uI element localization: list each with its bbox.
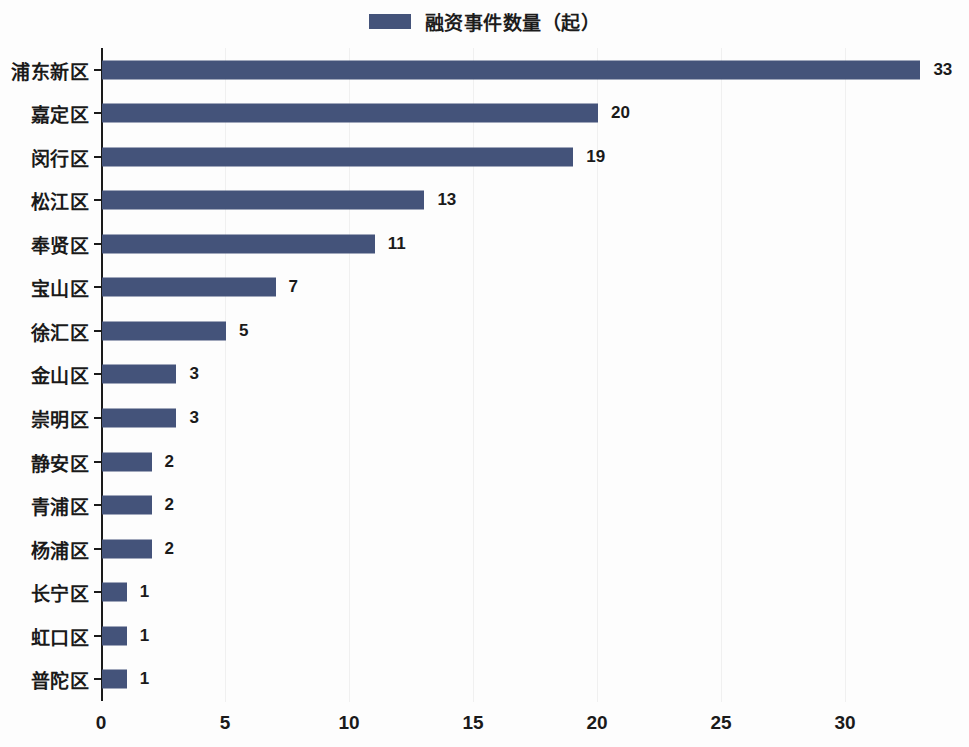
y-axis-tick — [94, 591, 101, 593]
category-label: 嘉定区 — [31, 100, 90, 127]
y-axis-tick — [94, 112, 101, 114]
category-label: 闵行区 — [31, 143, 90, 170]
category-label: 青浦区 — [31, 492, 90, 519]
bar-value-label: 3 — [189, 408, 198, 428]
bar-value-label: 19 — [586, 147, 605, 167]
bar[interactable] — [102, 104, 598, 123]
y-axis-tick — [94, 156, 101, 158]
bar[interactable] — [102, 278, 276, 297]
bar-row[interactable]: 长宁区1 — [0, 570, 969, 614]
y-axis-tick — [94, 286, 101, 288]
bar[interactable] — [102, 670, 127, 689]
bar-row[interactable]: 嘉定区20 — [0, 92, 969, 136]
bar-value-label: 2 — [165, 495, 174, 515]
x-axis-tick-label: 30 — [834, 712, 855, 734]
y-axis-tick — [94, 548, 101, 550]
x-axis-tick-label: 10 — [338, 712, 359, 734]
y-axis-tick — [94, 417, 101, 419]
bar-row[interactable]: 奉贤区11 — [0, 222, 969, 266]
bar-value-label: 1 — [140, 669, 149, 689]
bar-row[interactable]: 徐汇区5 — [0, 309, 969, 353]
bar[interactable] — [102, 583, 127, 602]
bar-rows: 浦东新区33嘉定区20闵行区19松江区13奉贤区11宝山区7徐汇区5金山区3崇明… — [0, 48, 969, 701]
category-label: 徐汇区 — [31, 317, 90, 344]
bar[interactable] — [102, 626, 127, 645]
bar[interactable] — [102, 365, 176, 384]
y-axis-tick — [94, 330, 101, 332]
bar-value-label: 7 — [289, 277, 298, 297]
category-label: 长宁区 — [31, 579, 90, 606]
category-label: 虹口区 — [31, 622, 90, 649]
bar-value-label: 11 — [388, 234, 406, 254]
y-axis-tick — [94, 243, 101, 245]
y-axis-tick — [94, 678, 101, 680]
bar-row[interactable]: 普陀区1 — [0, 657, 969, 701]
bar-value-label: 1 — [140, 626, 149, 646]
bar-value-label: 3 — [189, 364, 198, 384]
y-axis-tick — [94, 461, 101, 463]
bar-value-label: 1 — [140, 582, 149, 602]
x-axis-tick-label: 0 — [96, 712, 107, 734]
plot-area: 浦东新区33嘉定区20闵行区19松江区13奉贤区11宝山区7徐汇区5金山区3崇明… — [0, 40, 969, 747]
category-label: 静安区 — [31, 448, 90, 475]
category-label: 普陀区 — [31, 666, 90, 693]
category-label: 奉贤区 — [31, 230, 90, 257]
bar-value-label: 2 — [165, 452, 174, 472]
bar[interactable] — [102, 60, 920, 79]
bar[interactable] — [102, 409, 176, 428]
category-label: 杨浦区 — [31, 535, 90, 562]
y-axis-tick — [94, 199, 101, 201]
y-axis-tick — [94, 373, 101, 375]
category-label: 崇明区 — [31, 405, 90, 432]
bar[interactable] — [102, 234, 375, 253]
bar[interactable] — [102, 539, 152, 558]
chart-legend: 融资事件数量（起） — [0, 6, 969, 36]
bar[interactable] — [102, 321, 226, 340]
bar[interactable] — [102, 147, 573, 166]
bar-row[interactable]: 杨浦区2 — [0, 527, 969, 571]
category-label: 金山区 — [31, 361, 90, 388]
x-axis-tick-label: 5 — [220, 712, 231, 734]
bar-row[interactable]: 闵行区19 — [0, 135, 969, 179]
y-axis-tick — [94, 69, 101, 71]
bar-row[interactable]: 金山区3 — [0, 353, 969, 397]
bar[interactable] — [102, 452, 152, 471]
bar-row[interactable]: 宝山区7 — [0, 266, 969, 310]
bar-row[interactable]: 静安区2 — [0, 440, 969, 484]
bar-row[interactable]: 浦东新区33 — [0, 48, 969, 92]
bar-value-label: 5 — [239, 321, 248, 341]
bar-chart: 融资事件数量（起） 浦东新区33嘉定区20闵行区19松江区13奉贤区11宝山区7… — [0, 0, 969, 747]
bar-value-label: 33 — [933, 60, 952, 80]
x-axis-tick-label: 15 — [462, 712, 483, 734]
bar-value-label: 20 — [611, 103, 630, 123]
bar-row[interactable]: 松江区13 — [0, 179, 969, 223]
y-axis-tick — [94, 635, 101, 637]
category-label: 宝山区 — [31, 274, 90, 301]
bar-row[interactable]: 虹口区1 — [0, 614, 969, 658]
legend-swatch-icon — [369, 14, 411, 29]
bar-row[interactable]: 崇明区3 — [0, 396, 969, 440]
bar[interactable] — [102, 496, 152, 515]
bar[interactable] — [102, 191, 424, 210]
bar-value-label: 2 — [165, 539, 174, 559]
x-axis-tick-label: 20 — [586, 712, 607, 734]
bar-value-label: 13 — [437, 190, 456, 210]
category-label: 浦东新区 — [11, 56, 89, 83]
y-axis-tick — [94, 504, 101, 506]
legend-label: 融资事件数量（起） — [425, 8, 601, 35]
category-label: 松江区 — [31, 187, 90, 214]
x-axis-tick-label: 25 — [710, 712, 731, 734]
x-axis: 051015202530 — [0, 702, 969, 747]
bar-row[interactable]: 青浦区2 — [0, 483, 969, 527]
